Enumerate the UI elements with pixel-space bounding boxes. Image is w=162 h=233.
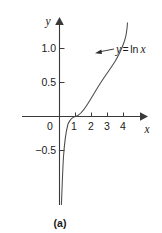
y-tick-label-neg-0-5: −0.5 <box>35 144 56 156</box>
y-tick-marks <box>60 49 65 151</box>
x-tick-marks <box>76 113 124 117</box>
x-tick-label-4: 4 <box>120 120 126 132</box>
y-tick-label-0-5: 0.5 <box>41 76 56 88</box>
annotation-x-symbol: x <box>139 43 146 55</box>
x-tick-label-3: 3 <box>104 120 110 132</box>
ln-x-plot: 0 1 2 3 4 1.0 0.5 −0.5 y x y=lnx (a) <box>0 0 162 233</box>
x-axis-label: x <box>143 123 150 135</box>
annotation-ln-text: ln <box>130 43 138 55</box>
annotation-arrow-icon <box>95 50 102 54</box>
figure-panel-a: 0 1 2 3 4 1.0 0.5 −0.5 y x y=lnx (a) <box>0 0 162 233</box>
annotation-y-symbol: y <box>115 43 122 56</box>
x-axis-arrow-icon <box>140 112 148 121</box>
y-axis-label: y <box>44 15 51 28</box>
y-tick-label-1-0: 1.0 <box>41 42 56 54</box>
y-axis-arrow-icon <box>55 17 64 25</box>
curve-annotation-label: y=lnx <box>115 43 146 56</box>
x-tick-label-0: 0 <box>47 120 53 132</box>
figure-caption: (a) <box>54 217 67 229</box>
annotation-equals-symbol: = <box>123 43 129 55</box>
x-tick-label-2: 2 <box>88 120 94 132</box>
x-tick-label-1: 1 <box>71 120 77 132</box>
